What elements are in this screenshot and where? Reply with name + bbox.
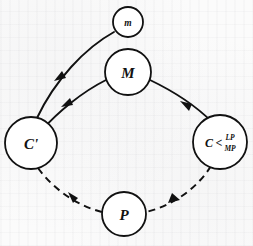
node-c-lp-mp-superscript-label: LP: [224, 133, 235, 142]
node-P-label: P: [119, 207, 129, 223]
node-m-label: m: [124, 18, 131, 28]
graph-diagram: m M C' C < LP MP P: [0, 0, 253, 246]
edge-M-to-cprime: [42, 80, 106, 130]
node-c-prime-label: C': [24, 136, 38, 152]
node-c-lp-mp-subscript-label: MP: [223, 144, 236, 153]
node-c-prime[interactable]: C': [5, 117, 57, 169]
edge-cprime-to-P: [38, 168, 102, 212]
node-c-lp-mp-relation-label: <: [216, 136, 223, 150]
node-c-lp-mp[interactable]: C < LP MP: [193, 115, 247, 169]
node-m[interactable]: m: [113, 7, 143, 37]
arrowhead-m-to-cprime: [54, 71, 66, 81]
node-M[interactable]: M: [105, 49, 151, 95]
edge-M-to-cmp: [150, 80, 212, 122]
arrowhead-M-to-cprime: [61, 98, 73, 107]
node-M-label: M: [120, 65, 135, 81]
arrowhead-cmp-to-P: [168, 193, 180, 203]
edge-cmp-to-P: [146, 166, 211, 212]
figure-canvas: m M C' C < LP MP P: [0, 0, 253, 246]
edge-m-to-cprime: [37, 32, 114, 118]
node-c-lp-mp-base-label: C: [205, 136, 214, 150]
node-P[interactable]: P: [102, 192, 146, 236]
